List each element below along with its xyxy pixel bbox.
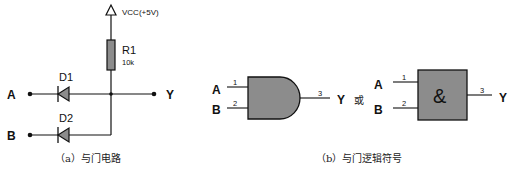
gate2-output-y: Y xyxy=(499,91,507,105)
and-gate-shape-icon xyxy=(248,77,300,119)
resistor-r1 xyxy=(107,40,115,70)
gate1-output-y: Y xyxy=(337,93,345,107)
resistor-value: 10k xyxy=(122,58,134,67)
output-y-terminal xyxy=(152,92,157,97)
junction-dot xyxy=(109,92,113,96)
gate2-input-a: A xyxy=(374,78,383,92)
gate1-pin1: 1 xyxy=(233,78,237,87)
vcc-label: VCC(+5V) xyxy=(122,8,159,17)
gate1-input-a: A xyxy=(212,83,221,97)
diode-d2-label: D2 xyxy=(59,112,73,124)
and-gate-diagram: VCC(+5V) R1 10k D1 A Y D2 B （a）与门电路 xyxy=(0,0,515,171)
caption-b: （b）与门逻辑符号 xyxy=(316,152,402,164)
gate1-input-b: B xyxy=(212,103,221,117)
gate1-pin3: 3 xyxy=(318,89,322,98)
resistor-name: R1 xyxy=(122,44,136,56)
input-b-label: B xyxy=(7,129,16,143)
gate1-pin2: 2 xyxy=(233,99,237,108)
diode-d1-label: D1 xyxy=(59,71,73,83)
gate2-pin3: 3 xyxy=(480,86,484,95)
ampersand-symbol: & xyxy=(433,85,447,107)
diode-d1-icon xyxy=(58,86,69,102)
gate2-pin2: 2 xyxy=(402,99,406,108)
and-gate-symbol-iec: 1 2 3 & A B Y xyxy=(374,70,507,120)
caption-a: （a）与门电路 xyxy=(55,152,121,164)
diode-d2-icon xyxy=(58,127,69,143)
input-a-label: A xyxy=(7,88,16,102)
and-gate-symbol-ansi: 1 2 3 A B Y xyxy=(212,77,345,119)
or-word: 或 xyxy=(354,95,364,106)
output-y-label: Y xyxy=(166,88,174,102)
vcc-arrow-icon xyxy=(106,5,116,40)
gate2-pin1: 1 xyxy=(402,73,406,82)
gate2-input-b: B xyxy=(374,103,383,117)
and-gate-circuit: VCC(+5V) R1 10k D1 A Y D2 B （a）与门电路 xyxy=(7,5,174,164)
